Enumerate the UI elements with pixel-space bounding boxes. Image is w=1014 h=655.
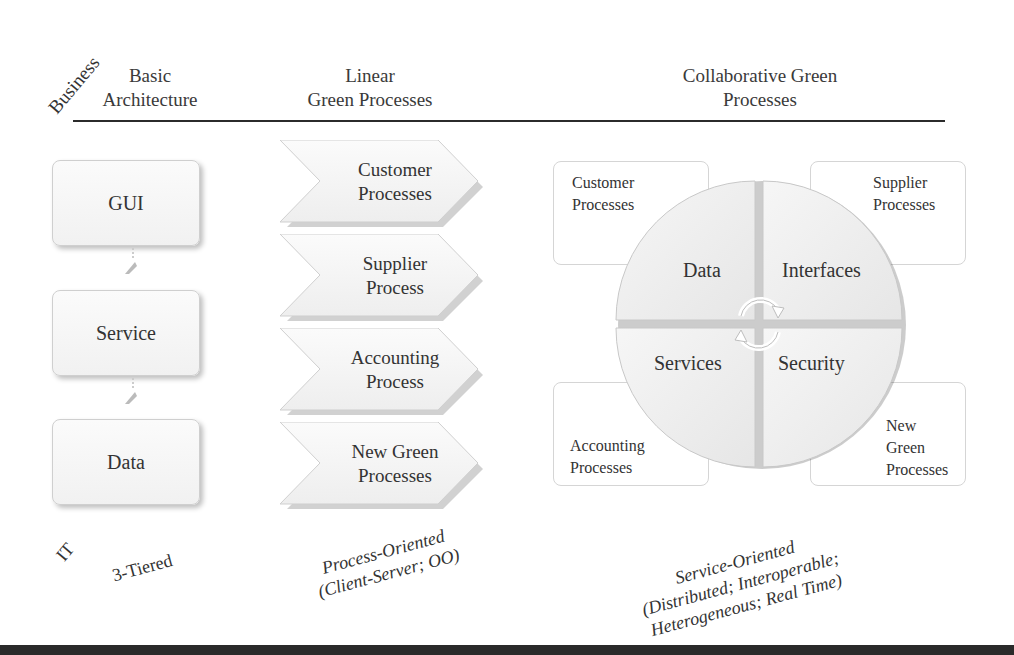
- header-line: Collaborative Green: [630, 64, 890, 88]
- footer-service-oriented: Service-Oriented (Distributed; Interoper…: [634, 526, 847, 642]
- quadrant-label-interfaces: Interfaces: [782, 259, 861, 282]
- process-chevron-accounting: AccountingProcess: [280, 328, 480, 412]
- process-chevron-supplier: SupplierProcess: [280, 234, 480, 318]
- label-line: Accounting: [351, 346, 440, 370]
- chevron-label: New GreenProcesses: [320, 422, 470, 506]
- quadrant-services: [616, 328, 755, 467]
- header-line: Linear: [270, 64, 470, 88]
- label-line: Customer: [358, 158, 432, 182]
- header-line: Architecture: [70, 88, 230, 112]
- quadrant-label-security: Security: [778, 352, 845, 375]
- quadrant-label-services: Services: [654, 352, 722, 375]
- label-line: Process: [363, 276, 427, 300]
- bottom-border: [0, 645, 1014, 655]
- header-line: Basic: [70, 64, 230, 88]
- tier-label: Service: [96, 322, 156, 345]
- process-chevron-new-green: New GreenProcesses: [280, 422, 480, 506]
- header-divider: [73, 120, 945, 122]
- chevron-label: SupplierProcess: [320, 234, 470, 318]
- quadrant-interfaces: [763, 181, 902, 320]
- tier-label: Data: [107, 451, 145, 474]
- tier-service: Service: [52, 290, 200, 376]
- label-line: Processes: [351, 464, 438, 488]
- footer-process-oriented: Process-Oriented (Client-Server; OO): [310, 522, 462, 602]
- label-line: Processes: [358, 182, 432, 206]
- column-header-basic-architecture: Basic Architecture: [70, 64, 230, 112]
- chevron-label: AccountingProcess: [320, 328, 470, 412]
- axis-label-it: IT: [52, 539, 79, 566]
- footer-3-tiered: 3-Tiered: [110, 550, 175, 586]
- tier-connector-icon: [125, 248, 137, 274]
- tier-data: Data: [52, 419, 200, 505]
- label-line: Process: [351, 370, 440, 394]
- process-chevron-customer: CustomerProcesses: [280, 140, 480, 224]
- tier-label: GUI: [108, 192, 144, 215]
- header-line: Green Processes: [270, 88, 470, 112]
- column-header-linear-green: Linear Green Processes: [270, 64, 470, 112]
- column-header-collaborative-green: Collaborative Green Processes: [630, 64, 890, 112]
- chevron-label: CustomerProcesses: [320, 140, 470, 224]
- quadrant-label-data: Data: [683, 259, 721, 282]
- tier-connector-icon: [125, 378, 137, 404]
- label-line: Supplier: [363, 252, 427, 276]
- tier-gui: GUI: [52, 160, 200, 246]
- header-line: Processes: [630, 88, 890, 112]
- label-line: New Green: [351, 440, 438, 464]
- quadrant-security: [763, 328, 902, 467]
- collaboration-circle: [610, 170, 910, 475]
- quadrant-data: [616, 181, 755, 320]
